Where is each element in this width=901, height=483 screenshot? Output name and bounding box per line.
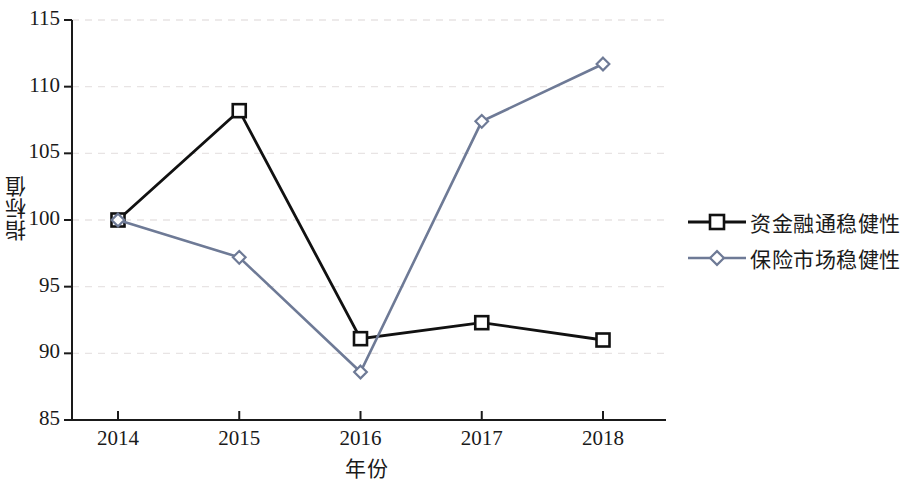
legend-label: 保险市场稳健性: [750, 243, 901, 273]
square-marker-icon: [597, 334, 610, 347]
y-tick-label: 105: [8, 139, 60, 164]
series-1: [112, 104, 610, 346]
square-marker-icon: [233, 104, 246, 117]
legend-item-1[interactable]: 资金融通稳健性: [686, 204, 901, 240]
x-tick-label: 2017: [442, 426, 522, 451]
y-tick-label: 95: [8, 273, 60, 298]
legend-marker-icon: [686, 210, 748, 234]
y-tick-label: 90: [8, 339, 60, 364]
y-tick-label: 115: [8, 6, 60, 31]
x-tick-label: 2015: [199, 426, 279, 451]
series-layer: [112, 58, 610, 379]
chart-legend: 资金融通稳健性保险市场稳健性: [686, 204, 901, 276]
x-axis-title: 年份: [327, 452, 407, 482]
y-tick-label: 85: [8, 406, 60, 431]
series-line: [118, 64, 603, 372]
legend-marker-icon: [686, 246, 748, 270]
y-tick-label: 110: [8, 73, 60, 98]
square-marker-icon: [354, 332, 367, 345]
square-marker-icon: [475, 316, 488, 329]
x-tick-marks: [118, 411, 603, 420]
gridlines: [72, 20, 666, 353]
x-tick-label: 2016: [321, 426, 401, 451]
axis-lines: [72, 20, 666, 420]
diamond-marker-icon: [475, 115, 488, 128]
diamond-marker-icon: [710, 251, 724, 265]
legend-item-2[interactable]: 保险市场稳健性: [686, 240, 901, 276]
y-axis-title: 指标值: [2, 175, 30, 241]
y-tick-marks: [64, 20, 72, 420]
series-line: [118, 111, 603, 340]
x-tick-label: 2014: [78, 426, 158, 451]
x-tick-label: 2018: [563, 426, 643, 451]
legend-label: 资金融通稳健性: [750, 207, 901, 237]
square-marker-icon: [710, 215, 724, 229]
diamond-marker-icon: [597, 58, 610, 71]
